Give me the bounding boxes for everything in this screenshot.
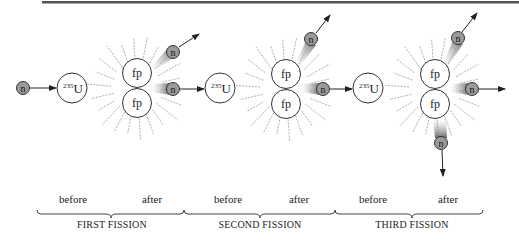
top-rule (42, 1, 519, 4)
energy-ray (87, 84, 111, 86)
fission-label-first: FIRST FISSION (77, 219, 147, 230)
mass-number: 235 (359, 82, 370, 90)
fp-label: fp (281, 67, 291, 81)
energy-ray (305, 104, 326, 120)
energy-ray (413, 113, 423, 132)
energy-ray (96, 72, 115, 79)
fission-products-1: fp fp (123, 59, 152, 118)
brace-first-fission (37, 210, 184, 218)
energy-ray (161, 98, 181, 106)
fission-products-3: fp fp (421, 60, 450, 119)
neutron-label: n (309, 34, 314, 45)
energy-ray (292, 38, 297, 63)
neutron-label: n (171, 84, 176, 95)
energy-ray (122, 45, 128, 63)
neutron-label: n (470, 84, 475, 95)
energy-ray (256, 47, 272, 69)
energy-ray (107, 46, 123, 68)
fission-chain-diagram: n 235U fp fp n n 235U fp fp n (0, 0, 519, 241)
energy-ray (162, 78, 180, 82)
arrow-icon (316, 15, 330, 33)
brace-second-fission (184, 210, 335, 218)
stage-label-before: before (59, 193, 87, 205)
neutron-label: n (321, 84, 326, 95)
energy-ray (264, 113, 274, 132)
emitted-neutron: n (317, 83, 330, 96)
emitted-neutron: n (466, 83, 479, 96)
fission-label-second: SECOND FISSION (218, 219, 301, 230)
energy-ray (245, 73, 264, 80)
stage-label-after: after (289, 193, 309, 205)
energy-ray (139, 115, 141, 140)
energy-ray (453, 54, 468, 70)
neutron-label: n (439, 138, 444, 149)
energy-ray (247, 102, 263, 111)
fp-label: fp (132, 66, 142, 80)
emitted-neutron: n (452, 32, 465, 45)
uranium-235-nucleus-1: 235U (57, 73, 87, 103)
energy-ray (102, 106, 120, 125)
uranium-235-nucleus-2: 235U (205, 73, 235, 103)
neutron-label: n (171, 47, 176, 58)
arrow-icon (179, 34, 199, 47)
energy-ray (145, 112, 153, 135)
energy-ray (400, 107, 418, 126)
mass-number: 235 (211, 82, 222, 90)
emitted-neutron: n (167, 83, 180, 96)
element-symbol: U (74, 81, 84, 96)
energy-ray (389, 94, 412, 99)
stage-label-before: before (214, 193, 242, 205)
energy-ray (441, 38, 446, 63)
energy-ray (288, 116, 290, 141)
neutron-label: n (456, 33, 461, 44)
energy-ray (156, 103, 177, 119)
fp-label: fp (132, 96, 142, 110)
energy-ray (451, 111, 462, 126)
fp-label: fp (430, 67, 440, 81)
fp-label: fp (430, 97, 440, 111)
neutron-label: n (21, 83, 26, 94)
stage-label-before: before (359, 193, 387, 205)
energy-ray (310, 99, 330, 107)
emitted-neutron: n (167, 46, 180, 59)
stage-label-after: after (438, 193, 458, 205)
energy-ray (153, 110, 164, 125)
energy-ray (385, 85, 409, 87)
energy-ray (143, 37, 148, 62)
energy-ray (405, 47, 421, 69)
energy-ray (294, 113, 302, 136)
energy-ray (271, 46, 277, 64)
emitted-neutron: n (305, 33, 318, 46)
energy-ray (98, 101, 114, 110)
incoming-neutron: n (17, 82, 30, 95)
fp-label: fp (281, 97, 291, 111)
energy-ray (459, 99, 479, 107)
fission-label-third: THIRD FISSION (375, 219, 448, 230)
energy-ray (456, 64, 479, 77)
energy-ray (396, 102, 412, 111)
energy-ray (454, 104, 475, 120)
stage-label-after: after (142, 193, 162, 205)
mass-number: 235 (63, 82, 74, 90)
energy-ray (91, 93, 114, 98)
energy-ray (420, 46, 426, 64)
energy-ray (397, 60, 414, 73)
element-symbol: U (370, 81, 380, 96)
motion-trail (433, 119, 447, 138)
brace-third-fission (335, 210, 483, 218)
arrow-icon (442, 150, 443, 176)
energy-ray (248, 60, 265, 73)
energy-ray (251, 107, 269, 126)
emitted-neutron: n (435, 137, 448, 150)
uranium-235-nucleus-3: 235U (353, 73, 383, 103)
energy-ray (115, 112, 125, 131)
arrow-icon (462, 13, 477, 32)
energy-ray (307, 64, 330, 77)
energy-ray (99, 59, 116, 72)
element-symbol: U (222, 81, 232, 96)
fission-products-2: fp fp (272, 60, 301, 119)
energy-ray (302, 111, 313, 126)
energy-ray (236, 85, 260, 87)
energy-ray (240, 94, 263, 99)
energy-ray (394, 73, 413, 80)
